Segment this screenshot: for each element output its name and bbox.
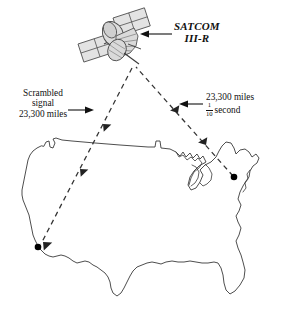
satcom-label: SATCOM III-R [174,20,220,45]
distance-line: 23,300 miles [206,92,254,102]
east-coast-city [231,174,238,181]
scrambled-signal-label: Scrambled signal 23,300 miles [6,88,80,119]
time-unit: second [215,105,241,115]
satcom-pointer-arrow [140,31,172,38]
arrowhead-uplink-mid [170,103,182,116]
distance-time-label: 23,300 miles 1 10 second [206,92,254,118]
west-coast-city [35,244,42,251]
arrowhead-uplink-map [198,135,210,148]
scrambled-signal-line1: Scrambled [6,88,80,98]
scrambled-signal-line3: 23,300 miles [6,109,80,119]
diagram-canvas [0,0,289,323]
satellite-relay-figure: SATCOM III-R Scrambled signal 23,300 mil… [0,0,289,323]
time-line: 1 10 second [206,102,254,118]
satcom-label-line2: III-R [174,32,220,44]
united-states-outline [22,138,259,296]
one-tenth-fraction: 1 10 [206,102,213,118]
right-label-pointer-arrow [179,101,203,108]
satellite-icon [78,8,150,64]
fraction-numerator: 1 [206,102,213,109]
satcom-label-line1: SATCOM [174,20,220,32]
fraction-denominator: 10 [206,111,213,118]
scrambled-signal-line2: signal [6,98,80,108]
